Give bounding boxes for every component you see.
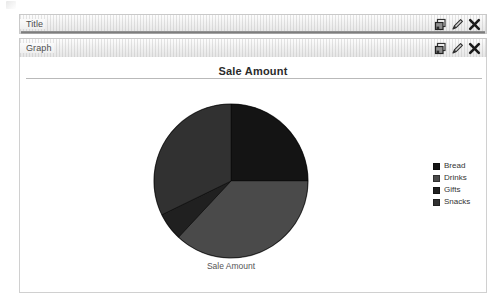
screenshot-root: Title Graph bbox=[0, 0, 504, 303]
legend-label: Drinks bbox=[444, 173, 467, 183]
graph-row-bar[interactable]: Graph bbox=[19, 38, 487, 58]
chart-title: Sale Amount bbox=[20, 65, 486, 77]
chart-panel: Sale Amount Sale Amount Bread Drinks Gif… bbox=[19, 57, 487, 293]
legend-label: Snacks bbox=[444, 197, 470, 207]
graph-row-actions bbox=[434, 42, 486, 55]
corner-artifact bbox=[6, 1, 16, 9]
chart-legend: Bread Drinks Gifts Snacks bbox=[433, 161, 470, 207]
legend-label: Bread bbox=[444, 161, 465, 171]
legend-item[interactable]: Snacks bbox=[433, 197, 470, 207]
close-x-icon[interactable] bbox=[468, 42, 481, 55]
duplicate-icon[interactable] bbox=[434, 18, 447, 31]
title-divider bbox=[26, 78, 482, 79]
legend-label: Gifts bbox=[444, 185, 460, 195]
edit-pencil-icon[interactable] bbox=[451, 42, 464, 55]
title-row-label: Title bbox=[20, 19, 45, 29]
pie-chart bbox=[153, 103, 309, 259]
edit-pencil-icon[interactable] bbox=[451, 18, 464, 31]
legend-item[interactable]: Bread bbox=[433, 161, 470, 171]
legend-swatch-drinks bbox=[433, 175, 440, 182]
close-x-icon[interactable] bbox=[468, 18, 481, 31]
title-row-actions bbox=[434, 18, 486, 31]
graph-row-label: Graph bbox=[20, 43, 54, 53]
legend-item[interactable]: Gifts bbox=[433, 185, 470, 195]
pie-slice[interactable] bbox=[231, 104, 308, 181]
pie-slice-group bbox=[154, 104, 308, 258]
pie-caption: Sale Amount bbox=[103, 261, 359, 271]
pie-svg bbox=[153, 103, 309, 259]
legend-swatch-snacks bbox=[433, 199, 440, 206]
legend-swatch-gifts bbox=[433, 187, 440, 194]
title-bar-underline bbox=[21, 31, 485, 34]
legend-swatch-bread bbox=[433, 163, 440, 170]
legend-item[interactable]: Drinks bbox=[433, 173, 470, 183]
duplicate-icon[interactable] bbox=[434, 42, 447, 55]
